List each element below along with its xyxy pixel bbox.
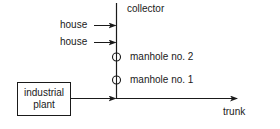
manhole-2-label: manhole no. 2 bbox=[130, 51, 193, 63]
trunk-label: trunk bbox=[223, 106, 245, 118]
manhole-1-label: manhole no. 1 bbox=[130, 74, 193, 86]
house-2-label: house bbox=[60, 36, 87, 48]
plant-label-line2: plant bbox=[24, 99, 64, 111]
sewer-diagram: collector house house manhole no. 2 manh… bbox=[0, 0, 280, 129]
collector-label: collector bbox=[127, 3, 164, 15]
house-1-label: house bbox=[60, 19, 87, 31]
plant-label-line1: industrial bbox=[24, 87, 64, 99]
industrial-plant-box: industrial plant bbox=[17, 82, 71, 116]
